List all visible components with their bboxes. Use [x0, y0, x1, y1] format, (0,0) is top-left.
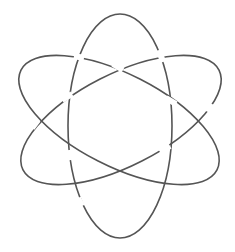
knot-diagram	[0, 0, 235, 252]
crossing-gaps	[32, 50, 212, 206]
knot-svg	[0, 0, 235, 252]
